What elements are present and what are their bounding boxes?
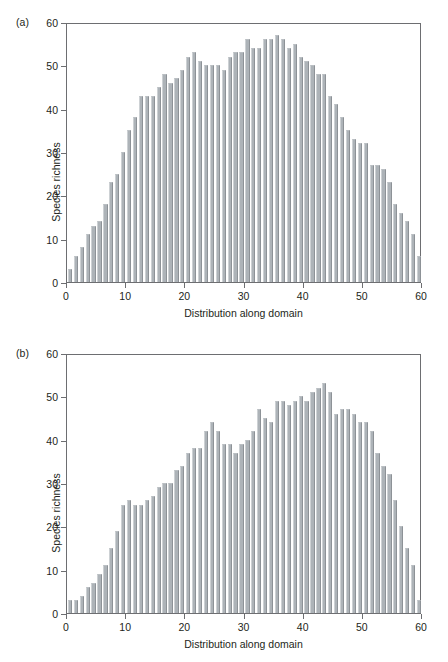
bar (375, 165, 379, 282)
bar (411, 565, 415, 613)
bar (133, 505, 137, 613)
bar (304, 401, 308, 613)
x-axis-tick-b (244, 614, 245, 619)
bar (80, 247, 84, 282)
bar (310, 392, 314, 613)
y-axis-tick-label-b: 40 (30, 435, 58, 447)
y-axis-tick-label-a: 30 (30, 147, 58, 159)
y-axis-tick-label-a: 40 (30, 104, 58, 116)
bar (393, 204, 397, 282)
y-axis-tick-a (61, 66, 66, 67)
bar (133, 117, 137, 282)
bar (222, 70, 226, 282)
bar (269, 39, 273, 282)
x-axis-tick-label-a: 60 (406, 290, 436, 302)
bar (180, 70, 184, 282)
bar (121, 505, 125, 613)
bar (210, 422, 214, 613)
bar (174, 470, 178, 613)
x-axis-tick-label-b: 30 (229, 621, 259, 633)
x-axis-title-b: Distribution along domain (66, 638, 421, 650)
bar (233, 52, 237, 282)
bar (91, 226, 95, 282)
bar (275, 35, 279, 282)
x-axis-tick-label-b: 10 (110, 621, 140, 633)
bar (103, 565, 107, 613)
y-axis-tick-label-b: 10 (30, 565, 58, 577)
bar (405, 548, 409, 613)
y-axis-tick-label-b: 50 (30, 391, 58, 403)
x-axis-tick-a (362, 283, 363, 288)
y-axis-tick-a (61, 23, 66, 24)
bar (233, 453, 237, 613)
bar (157, 87, 161, 282)
bar (417, 256, 421, 282)
y-axis-tick-b (61, 441, 66, 442)
bar (405, 221, 409, 282)
bar (287, 48, 291, 282)
y-axis-tick-label-a: 20 (30, 190, 58, 202)
y-axis-tick-b (61, 527, 66, 528)
bar (251, 48, 255, 282)
bar (287, 405, 291, 613)
x-axis-tick-label-a: 50 (347, 290, 377, 302)
bar (281, 401, 285, 613)
y-axis-title-host-a: Species richness (26, 23, 27, 283)
bar (381, 466, 385, 613)
bar (151, 496, 155, 613)
y-axis-tick-b (61, 397, 66, 398)
bar (145, 96, 149, 282)
x-axis-tick-b (303, 614, 304, 619)
bar (139, 96, 143, 282)
bar (109, 182, 113, 282)
x-axis-tick-label-a: 0 (51, 290, 81, 302)
panel-label-a: (a) (16, 16, 29, 28)
bar (97, 221, 101, 282)
x-axis-tick-label-b: 0 (51, 621, 81, 633)
bar (257, 48, 261, 282)
bar-series-b (67, 355, 420, 613)
bar (370, 431, 374, 613)
x-axis-tick-label-b: 40 (288, 621, 318, 633)
bar (91, 583, 95, 613)
y-axis-tick-a (61, 153, 66, 154)
bar (162, 483, 166, 613)
bar (411, 234, 415, 282)
bar (239, 52, 243, 282)
bar (115, 174, 119, 282)
bar (322, 74, 326, 282)
y-axis-tick-a (61, 240, 66, 241)
bar-series-a (67, 24, 420, 282)
x-axis-tick-label-b: 50 (347, 621, 377, 633)
x-axis-tick-b (184, 614, 185, 619)
bar (281, 39, 285, 282)
bar (358, 422, 362, 613)
bar (151, 96, 155, 282)
bar (228, 444, 232, 613)
bar (192, 52, 196, 282)
bar (228, 57, 232, 282)
bar (393, 500, 397, 613)
bar (216, 431, 220, 613)
y-axis-title-host-b: Species richness (26, 354, 27, 614)
bar (245, 440, 249, 613)
bar (168, 83, 172, 282)
bar (145, 500, 149, 613)
x-axis-title-a: Distribution along domain (66, 307, 421, 319)
bar (68, 600, 72, 613)
x-axis-tick-label-a: 30 (229, 290, 259, 302)
y-axis-tick-a (61, 196, 66, 197)
bar (334, 104, 338, 282)
bar (251, 431, 255, 613)
y-axis-tick-label-b: 30 (30, 478, 58, 490)
bar (127, 500, 131, 613)
bar (210, 65, 214, 282)
bar (204, 65, 208, 282)
panel-label-b: (b) (16, 347, 29, 359)
y-axis-tick-b (61, 484, 66, 485)
bar (293, 44, 297, 282)
x-axis-tick-label-b: 60 (406, 621, 436, 633)
bar (263, 39, 267, 282)
bar (68, 269, 72, 282)
bar (239, 444, 243, 613)
